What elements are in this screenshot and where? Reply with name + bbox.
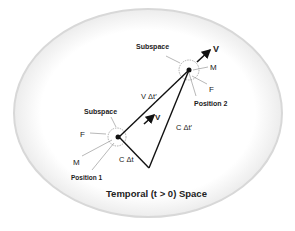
m-2-label: M	[210, 63, 217, 72]
c-dt-prime-label: C Δt′	[176, 123, 193, 132]
position-2-dot	[187, 68, 192, 73]
temporal-space-diagram: Subspace V M F Position 2 V Δt′ V C Δt′ …	[0, 0, 295, 231]
m-1-label: M	[73, 158, 80, 167]
v-2-label: V	[213, 44, 219, 54]
diagram-title: Temporal (t > 0) Space	[106, 188, 207, 199]
v-dt-prime-label: V Δt′	[141, 92, 157, 101]
f-2-label: F	[209, 85, 214, 94]
position-1-label: Position 1	[71, 174, 102, 181]
position-2-label: Position 2	[194, 100, 228, 107]
subspace-1-label: Subspace	[84, 108, 117, 116]
position-1-dot	[116, 135, 121, 140]
subspace-2-label: Subspace	[136, 43, 169, 51]
temporal-space-ellipse	[14, 9, 282, 217]
c-dt-label: C Δt	[119, 155, 135, 164]
mid-v-label: V	[155, 113, 161, 122]
f-1-label: F	[80, 130, 85, 139]
